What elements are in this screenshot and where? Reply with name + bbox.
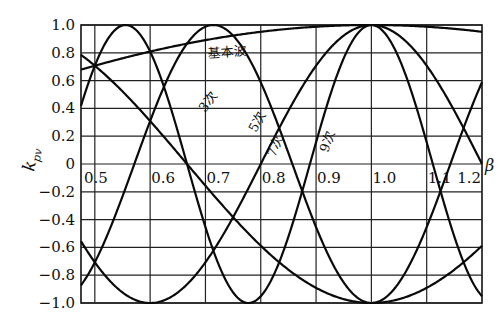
y-tick-label: −0.4 (39, 211, 75, 229)
x-tick-label: 1.0 (372, 169, 396, 187)
y-tick-label: −0.6 (39, 238, 75, 256)
x-tick-label: 0.6 (151, 169, 175, 187)
y-tick-label: −0.8 (39, 266, 75, 284)
y-tick-label: 0.4 (51, 99, 75, 117)
x-tick-label: 0.5 (84, 169, 108, 187)
label-5th: 5次 (245, 109, 268, 135)
x-axis-ticks: 0.50.60.70.80.91.01.11.2 (84, 169, 481, 187)
curve-harmonic-1 (81, 25, 482, 70)
y-tick-label: −1.0 (39, 294, 75, 312)
y-tick-label: 1.0 (51, 16, 75, 34)
x-tick-label: 0.7 (206, 169, 230, 187)
y-tick-label: 0 (65, 155, 75, 173)
x-tick-label: 1.2 (457, 169, 481, 187)
y-tick-label: 0.6 (51, 72, 75, 90)
label-3rd: 3次 (196, 89, 221, 115)
y-axis-label: kpv (18, 145, 45, 173)
grid (81, 25, 482, 303)
label-fundamental: 基本波 (207, 43, 247, 61)
x-tick-label: 0.8 (262, 169, 286, 187)
y-tick-label: −0.2 (39, 183, 75, 201)
y-axis-ticks: 1.00.80.60.40.20−0.2−0.4−0.6−0.8−1.0 (39, 16, 75, 312)
y-tick-label: 0.2 (51, 127, 75, 145)
pitch-factor-chart: 1.00.80.60.40.20−0.2−0.4−0.6−0.8−1.0 0.5… (0, 0, 498, 323)
x-tick-label: 0.9 (317, 169, 341, 187)
y-tick-label: 0.8 (51, 44, 75, 62)
x-axis-label: β (484, 156, 494, 175)
